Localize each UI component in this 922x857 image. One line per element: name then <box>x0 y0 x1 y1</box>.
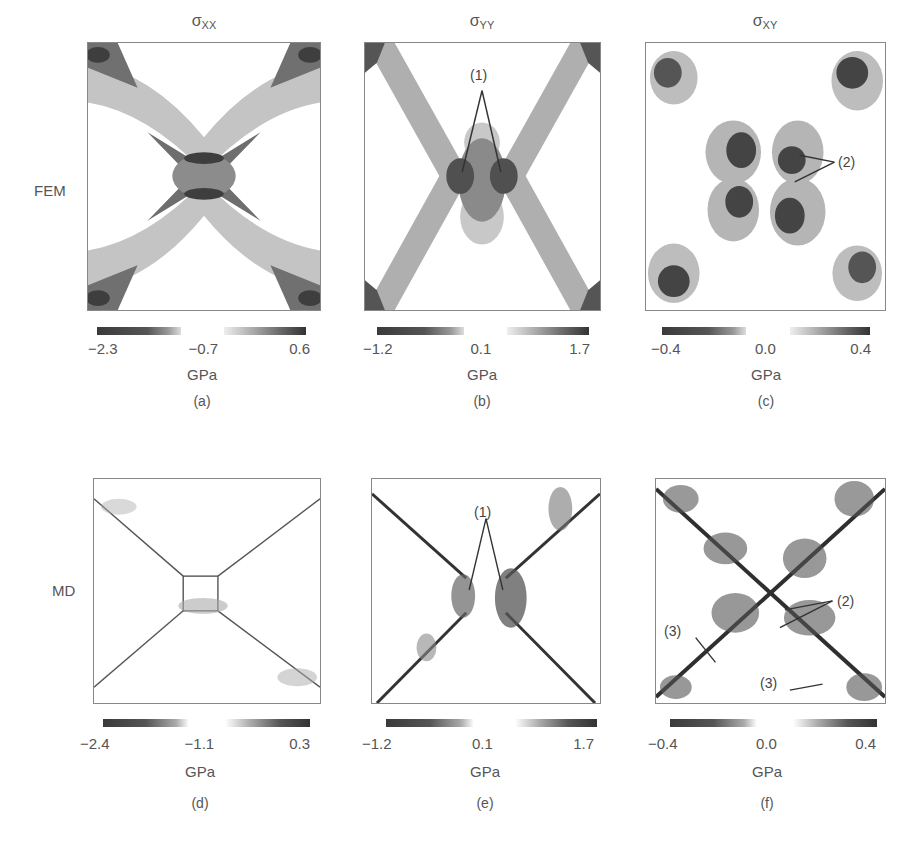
stress-map-c <box>646 43 885 310</box>
colorbar-a-positive <box>224 327 306 335</box>
colorbar-c-positive <box>790 327 870 335</box>
tick-max: 1.7 <box>573 735 594 752</box>
tick-mid: −0.7 <box>189 340 219 357</box>
row-label-fem: FEM <box>34 182 66 199</box>
colorbar-f-positive <box>793 719 877 727</box>
column-title-sigma-xy: σXY <box>705 12 825 31</box>
stress-map-a <box>88 43 320 310</box>
annotation-label-3a: (3) <box>664 623 681 639</box>
colorbar-ticks-a: −2.3 −0.7 0.6 <box>88 340 310 357</box>
colorbar-ticks-b: −1.2 0.1 1.7 <box>363 340 590 357</box>
panel-f-md-sigma-xy: (2) (3) (3) <box>655 478 886 704</box>
column-title-sigma-yy: σYY <box>422 12 542 31</box>
column-title-sigma-xx: σXX <box>144 12 264 31</box>
caption-b: (b) <box>462 393 502 409</box>
colorbar-ticks-f: −0.4 0.0 0.4 <box>648 735 876 752</box>
tick-min: −2.4 <box>80 735 110 752</box>
colorbar-e-positive <box>515 719 597 727</box>
unit-label-a: GPa <box>172 366 232 383</box>
annotation-label-1: (1) <box>474 504 491 520</box>
panel-a-fem-sigma-xx <box>87 42 321 311</box>
colorbar-b-positive <box>507 327 589 335</box>
annotation-label-1: (1) <box>470 67 487 83</box>
row-label-md: MD <box>52 582 75 599</box>
unit-label-b: GPa <box>452 366 512 383</box>
tick-min: −2.3 <box>88 340 118 357</box>
colorbar-ticks-d: −2.4 −1.1 0.3 <box>80 735 310 752</box>
colorbar-d-negative <box>103 719 189 727</box>
tick-mid: 0.1 <box>470 340 491 357</box>
panel-d-md-sigma-xx <box>93 478 321 704</box>
caption-f: (f) <box>747 795 787 811</box>
colorbar-a-negative <box>97 327 181 335</box>
tick-min: −0.4 <box>651 340 681 357</box>
caption-d: (d) <box>180 795 220 811</box>
colorbar-d-positive <box>225 719 310 727</box>
tick-min: −0.4 <box>648 735 678 752</box>
unit-label-d: GPa <box>170 763 230 780</box>
panel-b-fem-sigma-yy: (1) <box>364 42 601 311</box>
unit-label-e: GPa <box>455 763 515 780</box>
tick-mid: −1.1 <box>185 735 215 752</box>
tick-max: 0.4 <box>850 340 871 357</box>
tick-max: 0.3 <box>289 735 310 752</box>
annotation-label-2: (2) <box>838 154 855 170</box>
tick-max: 0.6 <box>289 340 310 357</box>
unit-label-f: GPa <box>737 763 797 780</box>
tick-max: 0.4 <box>855 735 876 752</box>
tick-mid: 0.1 <box>472 735 493 752</box>
caption-e: (e) <box>465 795 505 811</box>
tick-min: −1.2 <box>363 340 393 357</box>
annotation-label-2: (2) <box>837 593 854 609</box>
unit-label-c: GPa <box>736 366 796 383</box>
colorbar-e-negative <box>386 719 474 727</box>
colorbar-ticks-c: −0.4 0.0 0.4 <box>651 340 871 357</box>
stress-map-b <box>365 43 600 310</box>
colorbar-c-negative <box>662 327 746 335</box>
tick-mid: 0.0 <box>755 340 776 357</box>
tick-max: 1.7 <box>569 340 590 357</box>
colorbar-f-negative <box>670 719 757 727</box>
colorbar-ticks-e: −1.2 0.1 1.7 <box>362 735 594 752</box>
panel-c-fem-sigma-xy: (2) <box>645 42 886 311</box>
panel-e-md-sigma-yy: (1) <box>371 478 601 704</box>
colorbar-b-negative <box>377 327 464 335</box>
tick-mid: 0.0 <box>756 735 777 752</box>
caption-c: (c) <box>746 393 786 409</box>
stress-map-f <box>656 479 885 703</box>
caption-a: (a) <box>182 393 222 409</box>
tick-min: −1.2 <box>362 735 392 752</box>
stress-map-d <box>94 479 320 703</box>
annotation-label-3b: (3) <box>760 675 777 691</box>
